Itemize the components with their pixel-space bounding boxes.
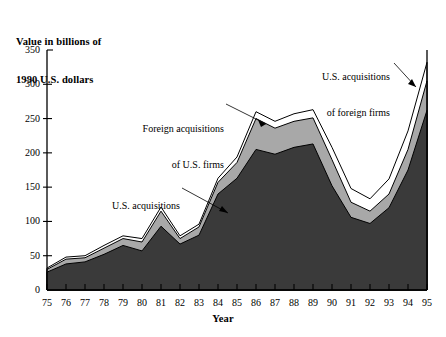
x-tick-label: 86 — [251, 298, 261, 308]
x-tick-label: 93 — [384, 298, 394, 308]
x-tick-label: 95 — [422, 298, 432, 308]
x-tick-label: 78 — [99, 298, 109, 308]
x-tick-label: 88 — [289, 298, 299, 308]
x-tick-label: 77 — [80, 298, 90, 308]
x-tick-label: 82 — [175, 298, 185, 308]
y-tick-label: 150 — [8, 182, 40, 192]
x-tick-label: 81 — [156, 298, 166, 308]
x-tick-label: 75 — [42, 298, 52, 308]
x-tick-label: 76 — [61, 298, 71, 308]
y-tick-label: 250 — [8, 114, 40, 124]
x-tick-label: 85 — [232, 298, 242, 308]
x-tick-label: 90 — [327, 298, 337, 308]
y-tick-label: 100 — [8, 216, 40, 226]
x-tick-label: 79 — [118, 298, 128, 308]
leader-arrow-us-foreign — [408, 79, 416, 87]
area-chart: Value in billions of 1990 U.S. dollars Y… — [0, 0, 446, 337]
x-tick-label: 94 — [403, 298, 413, 308]
y-tick-label: 350 — [8, 45, 40, 55]
x-tick-label: 80 — [137, 298, 147, 308]
x-tick-label: 89 — [308, 298, 318, 308]
series-areas — [47, 62, 427, 290]
y-tick-label: 300 — [8, 79, 40, 89]
y-tick-label: 200 — [8, 148, 40, 158]
x-tick-label: 83 — [194, 298, 204, 308]
y-tick-label: 50 — [8, 251, 40, 261]
x-tick-label: 92 — [365, 298, 375, 308]
plot-area — [0, 0, 446, 337]
x-tick-label: 87 — [270, 298, 280, 308]
x-tick-label: 91 — [346, 298, 356, 308]
x-tick-label: 84 — [213, 298, 223, 308]
y-tick-label: 0 — [8, 285, 40, 295]
